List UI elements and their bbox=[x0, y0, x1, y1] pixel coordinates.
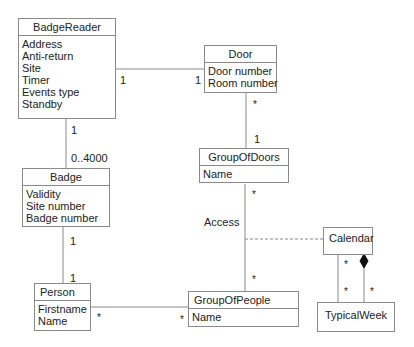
multiplicity-label: * bbox=[344, 287, 348, 297]
class-attributes: Firstname Name bbox=[35, 301, 90, 329]
class-name: GroupOfPeople bbox=[189, 292, 298, 309]
multiplicity-label: * bbox=[344, 260, 348, 270]
class-name: Calendar bbox=[324, 228, 372, 246]
multiplicity-label: 0..4000 bbox=[71, 152, 108, 164]
class-attributes: Name bbox=[189, 309, 298, 325]
class-badge: Badge Validity Site number Badge number bbox=[22, 168, 110, 227]
composition-diamond-icon bbox=[360, 254, 368, 268]
class-group-of-people: GroupOfPeople Name bbox=[188, 291, 299, 327]
class-group-of-doors: GroupOfDoors Name bbox=[199, 148, 289, 183]
class-attributes: Validity Site number Badge number bbox=[23, 186, 109, 226]
multiplicity-label: * bbox=[180, 315, 184, 325]
class-name: Door bbox=[205, 46, 276, 63]
multiplicity-label: 1 bbox=[120, 74, 126, 86]
multiplicity-label: 1 bbox=[71, 124, 77, 136]
class-attributes: Name bbox=[200, 166, 288, 182]
multiplicity-label: 1 bbox=[195, 74, 201, 86]
class-attributes: Address Anti-return Site Timer Events ty… bbox=[19, 36, 115, 112]
multiplicity-label: * bbox=[252, 190, 256, 200]
class-badge-reader: BadgeReader Address Anti-return Site Tim… bbox=[18, 18, 116, 119]
multiplicity-label: * bbox=[252, 275, 256, 285]
class-name: TypicalWeek bbox=[318, 303, 394, 323]
class-person: Person Firstname Name bbox=[34, 283, 91, 331]
class-typical-week: TypicalWeek bbox=[317, 302, 395, 332]
multiplicity-label: 1 bbox=[254, 133, 260, 145]
class-attributes: Door number Room number bbox=[205, 63, 276, 91]
class-name: BadgeReader bbox=[19, 19, 115, 36]
multiplicity-label: * bbox=[97, 313, 101, 323]
class-name: Badge bbox=[23, 169, 109, 186]
multiplicity-label: 1 bbox=[70, 272, 76, 284]
class-name: GroupOfDoors bbox=[200, 149, 288, 166]
multiplicity-label: 1 bbox=[70, 235, 76, 247]
class-calendar: Calendar bbox=[323, 227, 373, 255]
class-name: Person bbox=[35, 284, 90, 301]
association-name-label: Access bbox=[204, 216, 239, 228]
class-door: Door Door number Room number bbox=[204, 45, 277, 93]
multiplicity-label: * bbox=[370, 287, 374, 297]
multiplicity-label: * bbox=[253, 100, 257, 110]
